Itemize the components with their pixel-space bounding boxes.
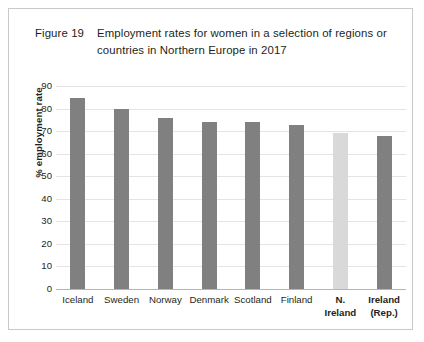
bar-ireland-rep[interactable] xyxy=(377,136,392,289)
bar-iceland[interactable] xyxy=(70,98,85,289)
y-tick-40: 40 xyxy=(18,194,52,204)
bar-denmark[interactable] xyxy=(202,122,217,289)
y-tick-30: 30 xyxy=(18,216,52,226)
bar-scotland[interactable] xyxy=(245,122,260,289)
bar-norway[interactable] xyxy=(158,118,173,289)
y-tick-80: 80 xyxy=(18,104,52,114)
bar-series xyxy=(56,86,406,289)
gridline-0 xyxy=(56,289,406,290)
y-tick-10: 10 xyxy=(18,261,52,271)
figure-frame: Figure 19 Employment rates for women in … xyxy=(8,8,413,330)
y-tick-20: 20 xyxy=(18,239,52,249)
y-axis-tick-labels: 9080706050403020100 xyxy=(9,86,52,289)
y-tick-0: 0 xyxy=(18,284,52,294)
bar-finland[interactable] xyxy=(289,125,304,289)
x-tick-line: Ireland xyxy=(353,294,415,307)
x-tick-ireland-rep: Ireland(Rep.) xyxy=(353,294,415,319)
y-tick-90: 90 xyxy=(18,81,52,91)
bar-n-ireland[interactable] xyxy=(333,133,348,289)
bar-chart: % employment rate 9080706050403020100 Ic… xyxy=(9,9,414,331)
plot-area xyxy=(56,86,406,289)
x-axis-tick-labels: IcelandSwedenNorwayDenmarkScotlandFinlan… xyxy=(56,294,406,334)
y-tick-60: 60 xyxy=(18,149,52,159)
y-tick-50: 50 xyxy=(18,171,52,181)
x-tick-line: (Rep.) xyxy=(353,307,415,320)
bar-sweden[interactable] xyxy=(114,109,129,289)
y-tick-70: 70 xyxy=(18,126,52,136)
